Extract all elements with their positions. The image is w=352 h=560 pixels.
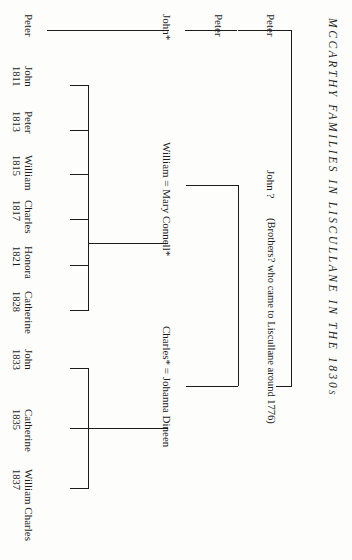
- child-year-john-1833: 1833: [11, 349, 22, 370]
- charles-child-arm-2: [70, 428, 89, 429]
- child-name-william-1815: William: [23, 155, 34, 191]
- child-name-catherine-1835: Catherine: [23, 409, 34, 452]
- link-charles-to-johnq: [186, 386, 238, 387]
- charles-child-arm-3: [70, 488, 89, 489]
- john-child-arm-1: [70, 85, 89, 86]
- child-year-peter-1813: 1813: [11, 111, 22, 132]
- john-child-arm-5: [70, 265, 89, 266]
- person-g2-john: John*: [161, 14, 172, 40]
- child-name-charles-1817: Charles: [23, 200, 34, 234]
- child-year-william-charles-1837: 1837: [11, 469, 22, 490]
- child-name-catherine-1828: Catherine: [23, 291, 34, 334]
- ancestor-bracket-spine: [291, 30, 292, 386]
- john-children-bracket-spine: [88, 85, 89, 310]
- link-charles-bracket-to-charles: [88, 428, 168, 429]
- person-g2-peter: Peter: [213, 14, 224, 37]
- child-name-peter-1813: Peter: [23, 111, 34, 134]
- child-year-catherine-1835: 1835: [11, 409, 22, 430]
- chart-title: MCCARTHY FAMILIES IN LISCULLANE IN THE 1…: [327, 18, 339, 397]
- link-top-row-left: [47, 30, 169, 31]
- person-g3-peter: Peter: [23, 14, 34, 37]
- link-top-row-right: [185, 30, 237, 31]
- child-year-honora-1821: 1821: [11, 246, 22, 267]
- link-john-bracket-to-william: [88, 243, 168, 244]
- john-child-arm-3: [70, 174, 89, 175]
- family-tree-chart: MCCARTHY FAMILIES IN LISCULLANE IN THE 1…: [0, 0, 352, 560]
- john-child-arm-4: [70, 219, 89, 220]
- john-child-arm-6: [70, 310, 89, 311]
- ancestor-bracket-bottom-arm: [276, 386, 292, 387]
- link-william-to-johnq: [186, 185, 238, 186]
- union-g2-william-mary: William = Mary Connell*: [161, 142, 172, 256]
- child-year-john-1811: 1811: [11, 66, 22, 87]
- person-g1-john: John ?: [265, 170, 276, 198]
- child-name-john-1833: John: [23, 349, 34, 370]
- child-name-honora-1821: Honora: [23, 246, 34, 279]
- charles-child-arm-1: [70, 368, 89, 369]
- person-g1-peter: Peter: [265, 14, 276, 37]
- child-year-william-1815: 1815: [11, 155, 22, 176]
- child-name-william-charles-1837: William Charles: [23, 469, 34, 541]
- ancestor-bracket-top-arm: [276, 30, 292, 31]
- child-year-catherine-1828: 1828: [11, 291, 22, 312]
- johnq-children-spine: [238, 185, 239, 386]
- ancestors-note: (Brothers? who came to Liscullane around…: [266, 218, 277, 424]
- union-g2-charles-johanna: Charles* = Johanna Dineen: [161, 326, 172, 447]
- john-child-arm-2: [70, 130, 89, 131]
- child-name-john-1811: John: [23, 66, 34, 87]
- child-year-charles-1817: 1817: [11, 200, 22, 221]
